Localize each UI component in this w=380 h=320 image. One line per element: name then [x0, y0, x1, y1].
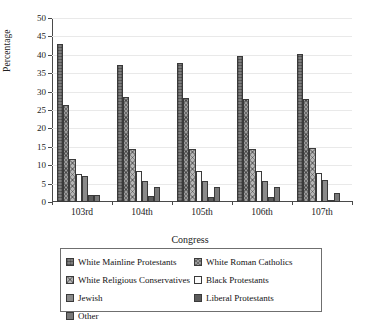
bar	[94, 195, 100, 202]
bar-chart: Percentage 05101520253035404550 103rd104…	[0, 0, 380, 320]
legend-item: Other	[66, 307, 190, 320]
y-axis-tick-label: 45	[22, 32, 46, 41]
bar	[154, 187, 160, 202]
legend-label: Liberal Protestants	[206, 293, 274, 303]
dark-solid-swatch	[194, 294, 202, 302]
light-cross-hatch-swatch	[66, 276, 74, 284]
y-axis-tick-label: 25	[22, 106, 46, 115]
x-axis-tick	[292, 201, 293, 205]
legend-item: White Roman Catholics	[194, 253, 316, 271]
grey-swatch	[66, 312, 74, 320]
y-axis-tick-label: 10	[22, 161, 46, 170]
x-axis-group-label: 106th	[232, 207, 292, 218]
y-axis-tick-label: 15	[22, 143, 46, 152]
y-axis-tick-label: 5	[22, 180, 46, 189]
y-axis-tick-label: 0	[22, 198, 46, 207]
legend-label: White Religious Conservatives	[78, 275, 190, 285]
y-axis-tick-label: 50	[22, 14, 46, 23]
x-axis-group-label: 103rd	[52, 207, 112, 218]
bar	[274, 187, 280, 202]
cross-hatch-swatch	[194, 258, 202, 266]
x-axis-title: Congress	[0, 234, 380, 245]
y-axis-tick-label: 35	[22, 69, 46, 78]
y-axis-tick-label: 40	[22, 51, 46, 60]
legend-item: White Mainline Protestants	[66, 253, 190, 271]
x-axis-group-label: 105th	[172, 207, 232, 218]
bar	[334, 193, 340, 202]
bars-container	[52, 18, 352, 202]
legend-item: White Religious Conservatives	[66, 271, 190, 289]
legend-label: Jewish	[78, 293, 103, 303]
y-axis-tick-label: 30	[22, 88, 46, 97]
x-axis-tick	[52, 201, 53, 205]
y-axis-title: Percentage	[2, 29, 12, 72]
x-axis-tick	[172, 201, 173, 205]
x-axis-group-label: 107th	[292, 207, 352, 218]
bar	[322, 180, 328, 202]
bar	[214, 187, 220, 202]
legend-item: Liberal Protestants	[194, 289, 316, 307]
y-axis-tick-label: 20	[22, 124, 46, 133]
legend: White Mainline ProtestantsWhite Roman Ca…	[60, 248, 322, 312]
legend-label: White Mainline Protestants	[78, 257, 176, 267]
white-swatch	[194, 276, 202, 284]
legend-label: White Roman Catholics	[206, 257, 292, 267]
x-axis-group-label: 104th	[112, 207, 172, 218]
legend-label: Black Protestants	[206, 275, 269, 285]
x-axis-tick	[112, 201, 113, 205]
legend-item: Jewish	[66, 289, 190, 307]
legend-label: Other	[78, 311, 99, 320]
medium-grey-swatch	[66, 294, 74, 302]
x-axis-tick	[352, 201, 353, 205]
x-axis-tick	[232, 201, 233, 205]
dark-grid-swatch	[66, 258, 74, 266]
legend-item: Black Protestants	[194, 271, 316, 289]
